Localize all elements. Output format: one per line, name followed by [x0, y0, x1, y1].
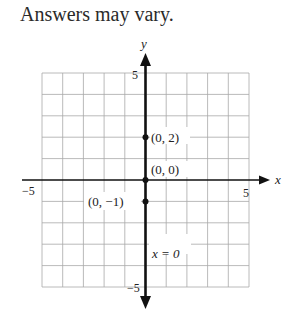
- point-label-0-2: (0, 2): [151, 130, 179, 145]
- equation-label: x = 0: [151, 246, 180, 261]
- x-axis-arrow-icon: [259, 176, 270, 185]
- x-axis-label: x: [274, 172, 281, 187]
- y-axis-label: y: [139, 36, 147, 51]
- y-axis-up-arrow-icon: [140, 53, 151, 66]
- point-0-neg1: [143, 198, 149, 204]
- coordinate-plane: y x 5 −5 −5 5 (0, 2) (0, 0) (0, −1) x = …: [0, 0, 299, 322]
- point-label-0-neg1: (0, −1): [88, 194, 124, 209]
- x-max-tick: 5: [243, 186, 249, 200]
- point-0-0: [143, 177, 149, 183]
- y-max-tick: 5: [132, 68, 138, 82]
- y-axis-down-arrow-icon: [140, 296, 151, 309]
- y-min-tick: −5: [127, 281, 140, 295]
- point-0-2: [143, 134, 149, 140]
- x-min-tick: −5: [22, 184, 35, 198]
- point-label-0-0: (0, 0): [151, 162, 179, 177]
